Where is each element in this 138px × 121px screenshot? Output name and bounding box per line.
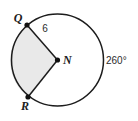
label-point-q: Q (14, 11, 23, 25)
label-arc-measure: 260° (106, 55, 127, 66)
circle-diagram: Q R N 6 260° (0, 0, 138, 121)
shaded-sector-qnr (10, 25, 57, 97)
point-marker-n (55, 57, 60, 62)
label-radius-measure: 6 (42, 23, 48, 34)
label-point-r: R (20, 99, 29, 113)
geometry-figure: Q R N 6 260° (0, 0, 138, 121)
point-marker-q (24, 22, 29, 27)
label-center-n: N (62, 53, 73, 67)
